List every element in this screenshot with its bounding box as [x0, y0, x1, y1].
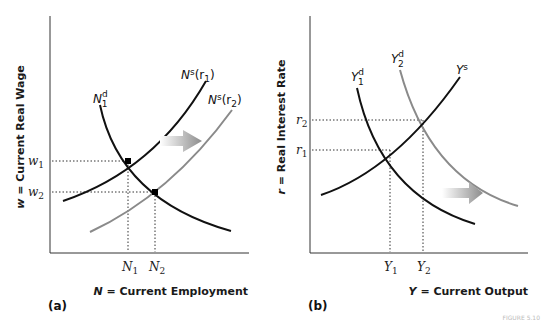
w1-tick-label: w1 [28, 154, 44, 170]
y1-tick-label: Y1 [384, 260, 398, 276]
figure: w = Current Real Wage Nd1 Ns(r1) Ns(r2) … [0, 0, 543, 322]
output-demand-2-label: Yd2 [391, 49, 404, 69]
labor-demand-curve [100, 105, 231, 231]
panel-b-label: (b) [308, 299, 328, 313]
panel-b: r = Real Interest Rate Yd1 Yd2 Ys r2 r1 [275, 16, 528, 313]
output-supply-curve [321, 77, 460, 195]
shift-right-arrow-icon [160, 130, 202, 152]
figure-number: FIGURE 5.10 [503, 314, 541, 321]
labor-supply-r1-label: Ns(r1) [181, 67, 215, 84]
panel-a-y-axis-label: w = Current Real Wage [14, 65, 27, 209]
output-supply-label: Ys [456, 62, 468, 77]
labor-supply-r2-curve [90, 110, 232, 232]
labor-supply-r2-label: Ns(r2) [208, 92, 242, 109]
equilibrium-point-2 [152, 189, 158, 195]
r1-tick-label: r1 [296, 143, 307, 159]
n2-tick-label: N2 [148, 260, 165, 276]
equilibrium-point-1 [125, 158, 131, 164]
panel-b-y-axis-label: r = Real Interest Rate [275, 59, 288, 194]
panel-b-x-axis-label: Y = Current Output [409, 285, 528, 298]
output-demand-1-label: Yd1 [351, 67, 364, 87]
output-demand-2-curve [400, 70, 518, 206]
panel-a-x-axis-label: N = Current Employment [93, 285, 248, 298]
n1-tick-label: N1 [121, 260, 138, 276]
r2-tick-label: r2 [296, 113, 307, 129]
shift-right-arrow-icon [442, 182, 483, 204]
w2-tick-label: w2 [28, 185, 44, 201]
panel-a: w = Current Real Wage Nd1 Ns(r1) Ns(r2) … [14, 16, 249, 313]
output-demand-1-curve [357, 88, 475, 224]
y2-tick-label: Y2 [417, 260, 431, 276]
panel-a-label: (a) [48, 299, 67, 313]
